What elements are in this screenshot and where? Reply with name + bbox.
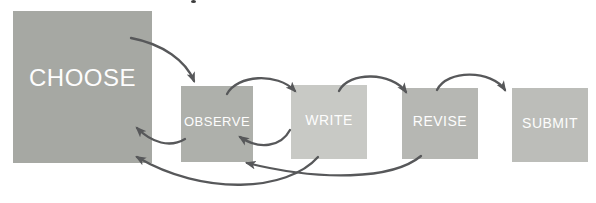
stage-label-submit: SUBMIT [522, 116, 578, 130]
process-diagram: CHOOSE OBSERVE WRITE REVISE SUBMIT [0, 0, 596, 203]
stage-label-revise: REVISE [413, 114, 467, 128]
stage-box-revise: REVISE [402, 88, 478, 159]
stage-label-observe: OBSERVE [184, 115, 250, 128]
stage-box-write: WRITE [291, 85, 367, 159]
stage-box-submit: SUBMIT [512, 88, 588, 162]
stage-label-write: WRITE [305, 113, 353, 127]
stage-box-choose: CHOOSE [13, 11, 152, 163]
stray-ink-dot [191, 0, 196, 3]
stage-label-choose: CHOOSE [29, 66, 136, 90]
stage-box-observe: OBSERVE [181, 86, 253, 162]
